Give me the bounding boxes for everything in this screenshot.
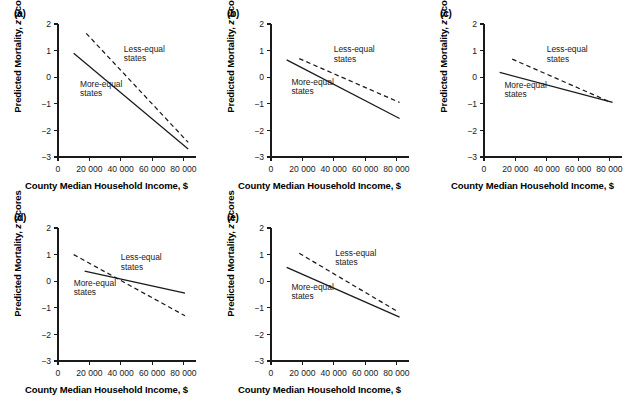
y-axis-tick-label: −2 xyxy=(254,126,264,136)
y-axis-tick-label: 0 xyxy=(46,276,51,286)
x-axis-tick-label: 0 xyxy=(269,368,274,378)
y-axis-tick-label: −2 xyxy=(254,330,264,340)
plot-area: 210−1−2−3020 00040 00060 00080 000More-e… xyxy=(0,204,213,408)
y-axis-tick-label: 0 xyxy=(46,72,51,82)
series-annotation-line1: More-equal xyxy=(504,80,547,90)
plot-area: 210−1−2−3020 00040 00060 00080 000More-e… xyxy=(426,0,639,204)
series-annotation-dashed: Less-equalstates xyxy=(335,248,376,268)
y-axis-tick-label: 2 xyxy=(472,19,477,29)
x-axis-tick-label: 80 000 xyxy=(383,164,410,174)
series-annotation-dashed: Less-equalstates xyxy=(121,252,162,272)
x-axis-tick-label: 40 000 xyxy=(321,368,348,378)
y-axis-tick-label: 1 xyxy=(46,46,51,56)
y-axis-tick-label: −3 xyxy=(467,152,477,162)
series-annotation-line1: Less-equal xyxy=(547,44,588,54)
y-axis-tick-label: −3 xyxy=(41,152,51,162)
series-annotation-line2: states xyxy=(547,54,569,64)
x-axis-tick-label: 80 000 xyxy=(596,164,623,174)
series-annotation-line2: states xyxy=(124,53,146,63)
y-axis-tick-label: −1 xyxy=(41,303,51,313)
x-axis-tick-label: 0 xyxy=(56,368,61,378)
series-annotation-line2: states xyxy=(291,291,313,301)
x-axis-tick-label: 60 000 xyxy=(565,164,592,174)
y-axis-tick-label: −1 xyxy=(254,99,264,109)
x-axis-tick-label: 60 000 xyxy=(352,368,379,378)
y-axis-tick-label: −2 xyxy=(41,330,51,340)
x-axis-tick-label: 40 000 xyxy=(321,164,348,174)
series-annotation-line1: More-equal xyxy=(74,278,117,288)
y-axis-tick-label: 2 xyxy=(46,19,51,29)
series-annotation-line1: Less-equal xyxy=(334,44,375,54)
y-axis-tick-label: 2 xyxy=(46,223,51,233)
y-axis-tick-label: −1 xyxy=(254,303,264,313)
y-axis-tick-label: −2 xyxy=(41,126,51,136)
panel-e: (e)Predicted Mortality, z ScoresCounty M… xyxy=(213,204,426,408)
x-axis-tick-label: 40 000 xyxy=(534,164,561,174)
y-axis-tick-label: 1 xyxy=(46,250,51,260)
y-axis-tick-label: 0 xyxy=(259,72,264,82)
x-axis-tick-label: 60 000 xyxy=(139,368,166,378)
x-axis-tick-label: 0 xyxy=(482,164,487,174)
x-axis-tick-label: 0 xyxy=(56,164,61,174)
x-axis-tick-label: 60 000 xyxy=(139,164,166,174)
x-axis-tick-label: 80 000 xyxy=(383,368,410,378)
y-axis-tick-label: −1 xyxy=(467,99,477,109)
x-axis-tick-label: 20 000 xyxy=(289,368,316,378)
series-annotation-solid: More-equalstates xyxy=(291,77,334,97)
plot-area: 210−1−2−3020 00040 00060 00080 000More-e… xyxy=(213,0,426,204)
x-axis-tick-label: 60 000 xyxy=(352,164,379,174)
series-annotation-line1: Less-equal xyxy=(124,44,165,54)
y-axis-tick-label: −1 xyxy=(41,99,51,109)
series-annotation-line1: More-equal xyxy=(80,79,123,89)
series-annotation-line2: states xyxy=(80,88,102,98)
x-axis-tick-label: 80 000 xyxy=(170,368,197,378)
y-axis-tick-label: −3 xyxy=(41,356,51,366)
x-axis-tick-label: 40 000 xyxy=(108,164,135,174)
plot-area: 210−1−2−3020 00040 00060 00080 000More-e… xyxy=(0,0,213,204)
series-annotation-solid: More-equalstates xyxy=(74,278,117,298)
x-axis-tick-label: 20 000 xyxy=(289,164,316,174)
y-axis-tick-label: 0 xyxy=(259,276,264,286)
y-axis-tick-label: 1 xyxy=(259,250,264,260)
series-annotation-line2: states xyxy=(74,287,96,297)
panel-b: (b)Predicted Mortality, z ScoresCounty M… xyxy=(213,0,426,204)
series-annotation-solid: More-equalstates xyxy=(80,79,123,99)
series-annotation-line2: states xyxy=(504,89,526,99)
series-annotation-line2: states xyxy=(291,86,313,96)
x-axis-tick-label: 20 000 xyxy=(76,368,103,378)
series-annotation-line1: Less-equal xyxy=(121,252,162,262)
y-axis-tick-label: 2 xyxy=(259,19,264,29)
y-axis-tick-label: 0 xyxy=(472,72,477,82)
series-annotation-line1: More-equal xyxy=(291,77,334,87)
multi-panel-figure: (a)Predicted Mortality, z ScoresCounty M… xyxy=(0,0,639,408)
y-axis-tick-label: −3 xyxy=(254,356,264,366)
series-annotation-dashed: Less-equalstates xyxy=(124,44,165,64)
series-annotation-line2: states xyxy=(334,54,356,64)
series-annotation-solid: More-equalstates xyxy=(291,282,334,302)
series-annotation-dashed: Less-equalstates xyxy=(547,44,588,64)
x-axis-tick-label: 0 xyxy=(269,164,274,174)
series-annotation-line1: More-equal xyxy=(291,282,334,292)
series-annotation-solid: More-equalstates xyxy=(504,80,547,100)
series-annotation-line2: states xyxy=(335,257,357,267)
y-axis-tick-label: 2 xyxy=(259,223,264,233)
series-annotation-line1: Less-equal xyxy=(335,248,376,258)
y-axis-tick-label: −3 xyxy=(254,152,264,162)
series-annotation-dashed: Less-equalstates xyxy=(334,44,375,64)
panel-c: (c)Predicted Mortality, z ScoresCounty M… xyxy=(426,0,639,204)
x-axis-tick-label: 20 000 xyxy=(502,164,529,174)
y-axis-tick-label: 1 xyxy=(472,46,477,56)
y-axis-tick-label: −2 xyxy=(467,126,477,136)
series-line-solid xyxy=(74,53,188,149)
x-axis-tick-label: 20 000 xyxy=(76,164,103,174)
series-annotation-line2: states xyxy=(121,262,143,272)
x-axis-tick-label: 80 000 xyxy=(170,164,197,174)
x-axis-tick-label: 40 000 xyxy=(108,368,135,378)
panel-a: (a)Predicted Mortality, z ScoresCounty M… xyxy=(0,0,213,204)
plot-area: 210−1−2−3020 00040 00060 00080 000More-e… xyxy=(213,204,426,408)
y-axis-tick-label: 1 xyxy=(259,46,264,56)
panel-d: (d)Predicted Mortality, z ScoresCounty M… xyxy=(0,204,213,408)
